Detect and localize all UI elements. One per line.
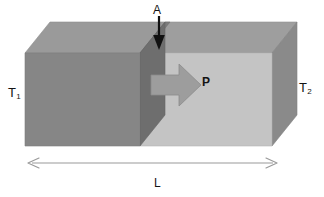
label-T2-subscript: 2 [307,87,311,96]
label-cross-section-area: A [153,4,161,16]
front-face-left [25,53,140,146]
heat-conduction-figure: T1 T2 A P L [0,0,324,197]
label-temperature-right: T2 [299,81,311,94]
label-power-flow: P [202,76,210,88]
label-T1-base: T [8,85,16,100]
label-length: L [154,177,161,189]
label-T2-base: T [299,80,307,95]
bar-diagram-svg [0,0,324,197]
label-temperature-left: T1 [8,86,20,99]
label-T1-subscript: 1 [16,92,20,101]
length-dimension-arrow [28,158,277,168]
